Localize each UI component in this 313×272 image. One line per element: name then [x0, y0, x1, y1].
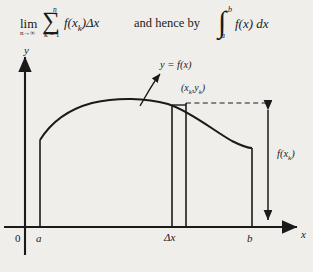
curve-label: y = f(x) [160, 59, 192, 70]
graph-svg [0, 0, 313, 272]
x-axis-label: x [301, 228, 306, 240]
delta-x-label: Δx [164, 231, 175, 243]
y-axis-label: y [24, 44, 29, 56]
function-curve [40, 99, 252, 148]
point-coordinate-label: (xk,yk) [181, 82, 205, 95]
figure-canvas: lim n→∞ ∑ n k = 1 f(xk)Δx and hence by ∫… [0, 0, 313, 272]
tick-label-b: b [247, 232, 253, 244]
origin-label: 0 [15, 232, 21, 244]
tick-label-a: a [36, 232, 42, 244]
height-value-label: f(xk) [277, 148, 295, 162]
